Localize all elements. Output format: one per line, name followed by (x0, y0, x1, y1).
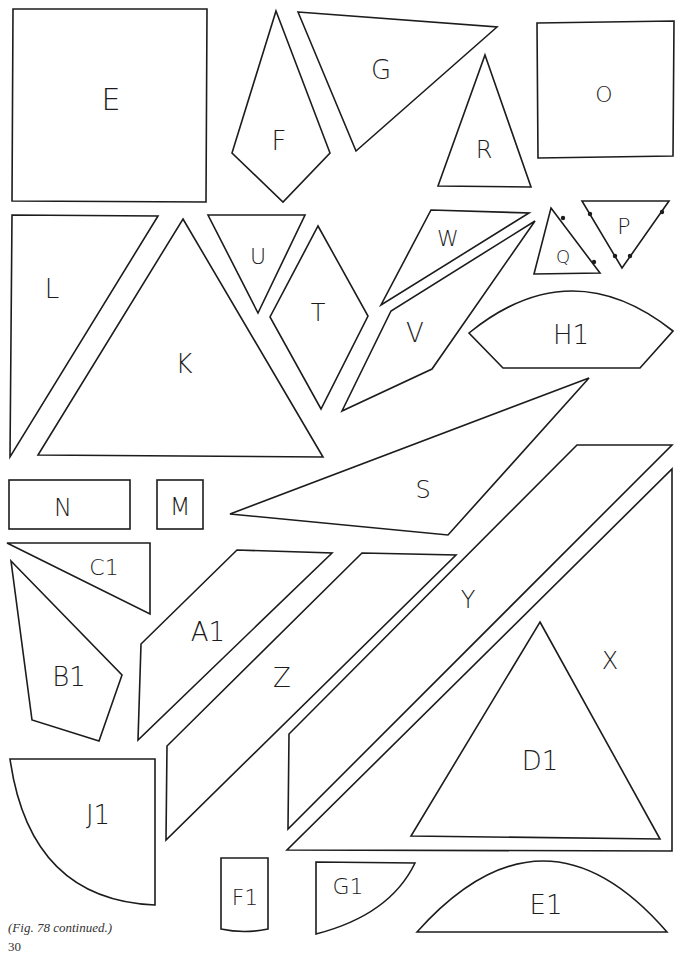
piece-label-w: W (437, 226, 459, 251)
piece-label-l: L (45, 274, 60, 304)
piece-label-k: K (175, 349, 192, 379)
piece-label-c1: C1 (89, 555, 118, 580)
p-marker-dot (660, 210, 664, 214)
piece-label-g: G (371, 55, 391, 85)
piece-label-y: Y (461, 586, 476, 614)
p-marker-dot (588, 212, 592, 216)
piece-label-x: X (602, 647, 618, 675)
figure-caption: (Fig. 78 continued.) (8, 920, 112, 936)
p-marker-dot (628, 254, 632, 258)
piece-label-u: U (250, 244, 266, 269)
piece-label-o: O (595, 82, 612, 107)
piece-label-e: E (102, 82, 121, 117)
piece-label-b1: B1 (52, 662, 86, 692)
piece-label-z: Z (273, 663, 291, 693)
piece-label-d1: D1 (522, 746, 559, 776)
piece-r (438, 55, 531, 187)
piece-label-t: T (311, 299, 326, 327)
piece-label-h1: H1 (553, 320, 589, 350)
piece-label-q: Q (556, 246, 570, 267)
piece-label-n: N (54, 494, 72, 522)
piece-label-j1: J1 (86, 800, 110, 830)
piece-label-s: S (415, 476, 430, 504)
piece-label-f1: F1 (232, 885, 259, 910)
piece-label-a1: A1 (191, 617, 225, 647)
piece-label-e1: E1 (530, 890, 563, 920)
piece-label-v: V (406, 318, 424, 348)
q-marker-dot (592, 260, 596, 264)
piece-label-f: F (272, 126, 287, 156)
q-marker-dot (561, 216, 565, 220)
page-number: 30 (8, 939, 21, 955)
piece-label-r: R (476, 136, 493, 164)
piece-label-g1: G1 (332, 874, 363, 899)
piece-label-p: P (617, 214, 630, 239)
p-marker-dot (613, 254, 617, 258)
puzzle-figure: EFGROLKUTWVQPH1SNMC1B1A1ZYXD1J1F1G1E1 (0, 0, 681, 958)
piece-g1 (316, 862, 415, 934)
piece-j1 (10, 759, 155, 905)
piece-label-m: M (170, 493, 191, 521)
